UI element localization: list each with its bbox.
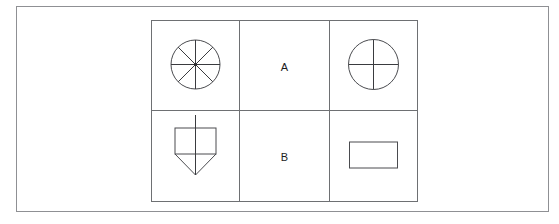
row-label-a: A xyxy=(281,61,289,73)
cell-row-b-left-shape xyxy=(152,111,240,202)
table-row: B xyxy=(152,111,418,202)
circle-four-sectors-icon xyxy=(330,21,417,110)
cell-row-b-right-shape xyxy=(330,111,418,202)
plain-rectangle-icon xyxy=(330,111,417,201)
cell-row-a-label: A xyxy=(240,21,330,111)
rectangle-with-triangle-and-axis-icon xyxy=(152,111,239,201)
figure-table: A xyxy=(151,20,418,202)
page-frame: A xyxy=(16,6,549,212)
row-label-b: B xyxy=(281,151,289,163)
table-row: A xyxy=(152,21,418,111)
cell-row-a-left-shape xyxy=(152,21,240,111)
cell-row-a-right-shape xyxy=(330,21,418,111)
cell-row-b-label: B xyxy=(240,111,330,202)
circle-eight-sectors-icon xyxy=(152,21,239,110)
